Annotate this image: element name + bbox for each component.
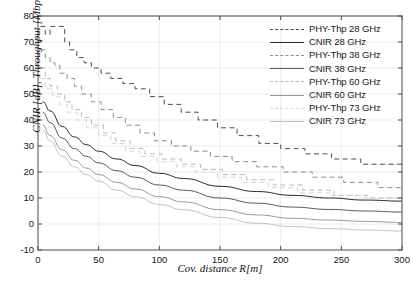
legend-line-sample [270, 103, 304, 113]
legend-label: PHY-Thp 28 GHz [309, 23, 381, 34]
legend-label: PHY-Thp 73 GHz [309, 102, 381, 113]
legend-line-sample [270, 116, 304, 126]
legend-entry: PHY-Thp 28 GHz [270, 22, 381, 35]
legend-label: CNIR 38 GHz [309, 63, 366, 74]
y-tick-label: 10 [4, 192, 34, 203]
legend-line-sample [270, 63, 304, 73]
legend-label: CNIR 28 GHz [309, 36, 366, 47]
legend-label: PHY-Thp 60 GHz [309, 76, 381, 87]
y-tick-label: 70 [4, 36, 34, 47]
legend-entry: CNIR 28 GHz [270, 35, 366, 48]
legend-entry: CNIR 38 GHz [270, 62, 366, 75]
y-tick-label: 40 [4, 114, 34, 125]
legend-label: PHY-Thp 38 GHz [309, 49, 381, 60]
x-tick-label: 150 [200, 254, 240, 265]
y-tick-label: 50 [4, 88, 34, 99]
y-tick-label: 30 [4, 140, 34, 151]
legend-label: CNIR 60 GHz [309, 89, 366, 100]
series-line-7 [43, 130, 402, 231]
legend-entry: PHY-Thp 60 GHz [270, 75, 381, 88]
y-axis-label: CNIR [dB], Throughput [Mbps] [30, 0, 42, 152]
x-tick-label: 50 [79, 254, 119, 265]
legend-entry: PHY-Thp 73 GHz [270, 101, 381, 114]
legend-entry: CNIR 73 GHz [270, 114, 366, 127]
legend-label: CNIR 73 GHz [309, 115, 366, 126]
legend-line-sample [270, 24, 304, 34]
legend-line-sample [270, 37, 304, 47]
x-tick-label: 200 [261, 254, 301, 265]
legend-entry: PHY-Thp 38 GHz [270, 48, 381, 61]
x-tick-label: 250 [321, 254, 361, 265]
figure: CNIR [dB], Throughput [Mbps] Cov. distan… [0, 0, 413, 286]
legend-line-sample [270, 76, 304, 86]
y-tick-label: 20 [4, 166, 34, 177]
y-tick-label: 80 [4, 10, 34, 21]
x-tick-label: 100 [139, 254, 179, 265]
x-tick-label: 300 [382, 254, 413, 265]
x-tick-label: 0 [18, 254, 58, 265]
legend-line-sample [270, 90, 304, 100]
legend-line-sample [270, 50, 304, 60]
y-tick-label: 0 [4, 218, 34, 229]
y-tick-label: 60 [4, 62, 34, 73]
legend-entry: CNIR 60 GHz [270, 88, 366, 101]
series-line-5 [43, 125, 402, 222]
